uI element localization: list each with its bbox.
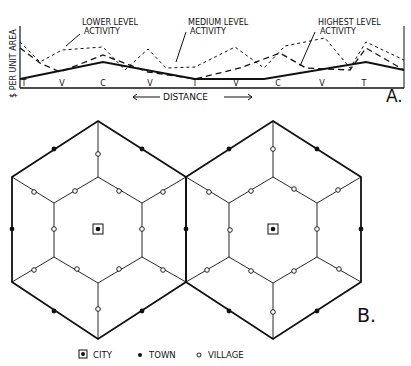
tick-label: V <box>59 79 65 88</box>
town-icon <box>184 227 189 232</box>
village-icon <box>205 268 210 273</box>
village-icon <box>96 152 101 157</box>
panel-b-label: B. <box>357 304 376 326</box>
tick-label: C <box>275 79 281 88</box>
village-icon <box>52 227 57 232</box>
town-icon <box>10 227 15 232</box>
village-icon <box>336 188 341 193</box>
village-icon <box>271 310 276 315</box>
village-icon <box>75 267 80 272</box>
village-icon <box>96 307 101 312</box>
town-icon <box>52 309 57 314</box>
village-icon <box>73 189 78 194</box>
medium-annotation-1: MEDIUM LEVEL <box>188 18 249 27</box>
highest-annotation-1: HIGHEST LEVEL <box>318 18 381 27</box>
village-icon <box>228 228 233 233</box>
city-icon <box>96 227 101 232</box>
village-icon <box>315 227 320 232</box>
village-icon <box>292 187 297 192</box>
village-icon <box>249 269 254 274</box>
central-place-diagram: LOWER LEVEL ACTIVITY MEDIUM LEVEL ACTIVI… <box>0 0 411 366</box>
town-icon <box>227 147 232 152</box>
x-axis-label: DISTANCE <box>163 92 208 102</box>
village-icon <box>140 227 145 232</box>
medium-annotation-2: ACTIVITY <box>190 27 226 36</box>
medium-arrow <box>176 32 186 62</box>
city-icon <box>271 227 276 232</box>
town-icon <box>315 147 320 152</box>
lower-arrow <box>66 34 80 46</box>
town-icon <box>140 309 145 314</box>
village-icon <box>161 268 166 273</box>
village-icon <box>292 269 297 274</box>
village-icon <box>32 268 37 273</box>
lower-annotation-2: ACTIVITY <box>84 27 120 36</box>
highest-arrow <box>300 32 315 66</box>
village-icon <box>337 267 342 272</box>
legend-village-icon <box>197 353 201 357</box>
town-icon <box>52 147 57 152</box>
lower-annotation-1: LOWER LEVEL <box>82 18 139 27</box>
legend-city-label: CITY <box>93 350 113 360</box>
panel-a-label: A. <box>386 86 403 106</box>
legend-town-label: TOWN <box>148 350 176 360</box>
legend: CITY TOWN VILLAGE <box>79 350 244 360</box>
highest-level-line <box>20 62 404 79</box>
tick-label: C <box>100 79 106 88</box>
village-icon <box>32 190 37 195</box>
tick-label: T <box>21 79 27 88</box>
y-axis-label: $ PER UNIT AREA <box>9 29 18 98</box>
tick-label: T <box>192 79 198 88</box>
village-icon <box>271 147 276 152</box>
village-icon <box>207 190 212 195</box>
tick-label: T <box>361 79 367 88</box>
legend-village-label: VILLAGE <box>208 350 244 360</box>
tick-label: V <box>319 79 325 88</box>
town-icon <box>140 147 145 152</box>
village-icon <box>117 267 122 272</box>
legend-town-icon <box>138 353 142 357</box>
town-icon <box>227 309 232 314</box>
town-icon <box>359 227 364 232</box>
village-icon <box>161 190 166 195</box>
towns <box>10 147 364 314</box>
tick-label: V <box>233 79 239 88</box>
village-icon <box>249 189 254 194</box>
panel-a-chart <box>20 26 404 100</box>
town-icon <box>315 309 320 314</box>
village-icon <box>117 189 122 194</box>
highest-annotation-2: ACTIVITY <box>320 27 356 36</box>
tick-label: V <box>147 79 153 88</box>
